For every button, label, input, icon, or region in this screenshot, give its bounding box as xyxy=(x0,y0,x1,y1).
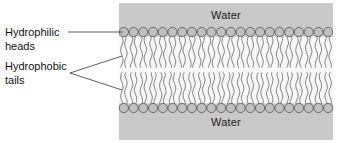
callout-hydrophobic-line1: Hydrophobic xyxy=(5,60,67,74)
callout-hydrophobic-tails: Hydrophobic tails xyxy=(5,60,67,87)
phospholipid-bilayer-figure: Water Water Hydrophilic heads Hydrophobi… xyxy=(0,0,340,143)
callout-hydrophilic-heads: Hydrophilic heads xyxy=(5,26,59,53)
callout-hydrophobic-line2: tails xyxy=(5,74,67,88)
callout-hydrophilic-line1: Hydrophilic xyxy=(5,26,59,40)
callout-hydrophilic-line2: heads xyxy=(5,40,59,54)
